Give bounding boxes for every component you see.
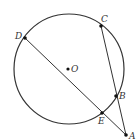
label-o: O <box>71 64 79 74</box>
label-d: D <box>14 31 22 41</box>
label-b: B <box>118 91 126 101</box>
point-c <box>99 24 103 28</box>
geometry-diagram: D C O B E A <box>0 0 138 140</box>
label-c: C <box>101 14 108 24</box>
point-o <box>66 67 69 70</box>
label-a: A <box>128 131 136 140</box>
point-e <box>100 111 104 115</box>
point-a <box>124 133 128 137</box>
label-e: E <box>97 116 105 126</box>
point-d <box>23 36 27 40</box>
segment-da <box>25 38 126 135</box>
point-b <box>114 94 118 98</box>
